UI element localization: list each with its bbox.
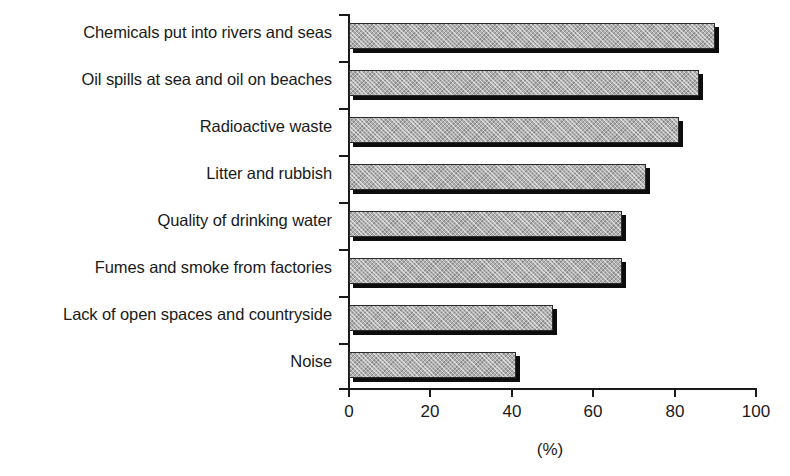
x-axis-tick-label: 40	[482, 402, 542, 421]
bar	[349, 117, 679, 147]
x-axis-line	[348, 388, 757, 390]
category-label: Noise	[0, 352, 332, 371]
bar	[349, 305, 553, 335]
x-axis-tick-label: 60	[563, 402, 623, 421]
bar-body	[349, 164, 646, 190]
x-axis-tick-label: 20	[400, 402, 460, 421]
y-axis-tick	[339, 61, 348, 63]
bar-body	[349, 352, 516, 378]
bar-chart: Chemicals put into rivers and seas Oil s…	[0, 0, 790, 476]
bar-body	[349, 23, 715, 49]
bar-body	[349, 70, 699, 96]
x-axis-tick-label: 80	[645, 402, 705, 421]
x-axis-tick	[511, 388, 513, 397]
category-label: Radioactive waste	[0, 117, 332, 136]
x-axis-title: (%)	[0, 440, 790, 460]
x-axis-tick	[592, 388, 594, 397]
category-label: Litter and rubbish	[0, 164, 332, 183]
category-label: Quality of drinking water	[0, 211, 332, 230]
y-axis-tick	[339, 388, 348, 390]
bar	[349, 352, 516, 382]
bar	[349, 258, 622, 288]
bar	[349, 23, 715, 53]
x-axis-tick	[429, 388, 431, 397]
y-axis-tick	[339, 155, 348, 157]
y-axis-tick	[339, 202, 348, 204]
x-axis-tick	[348, 388, 350, 397]
category-label: Chemicals put into rivers and seas	[0, 23, 332, 42]
bar	[349, 70, 699, 100]
plot-area: 0 20 40 60 80 100	[348, 14, 755, 388]
x-axis-tick-label: 0	[319, 402, 379, 421]
y-axis-tick	[339, 14, 348, 16]
bar-body	[349, 258, 622, 284]
x-axis-tick	[755, 388, 757, 397]
x-axis-title-text: (%)	[537, 440, 563, 459]
y-axis-tick	[339, 296, 348, 298]
y-axis-tick	[339, 108, 348, 110]
y-axis-tick	[339, 249, 348, 251]
x-axis-tick-label: 100	[726, 402, 786, 421]
category-axis-labels: Chemicals put into rivers and seas Oil s…	[0, 14, 340, 388]
y-axis-tick	[339, 343, 348, 345]
bar	[349, 164, 646, 194]
bar	[349, 211, 622, 241]
category-label: Oil spills at sea and oil on beaches	[0, 70, 332, 89]
x-axis-tick	[674, 388, 676, 397]
bar-body	[349, 117, 679, 143]
category-label: Fumes and smoke from factories	[0, 258, 332, 277]
bar-body	[349, 211, 622, 237]
bar-body	[349, 305, 553, 331]
category-label: Lack of open spaces and countryside	[0, 305, 332, 324]
